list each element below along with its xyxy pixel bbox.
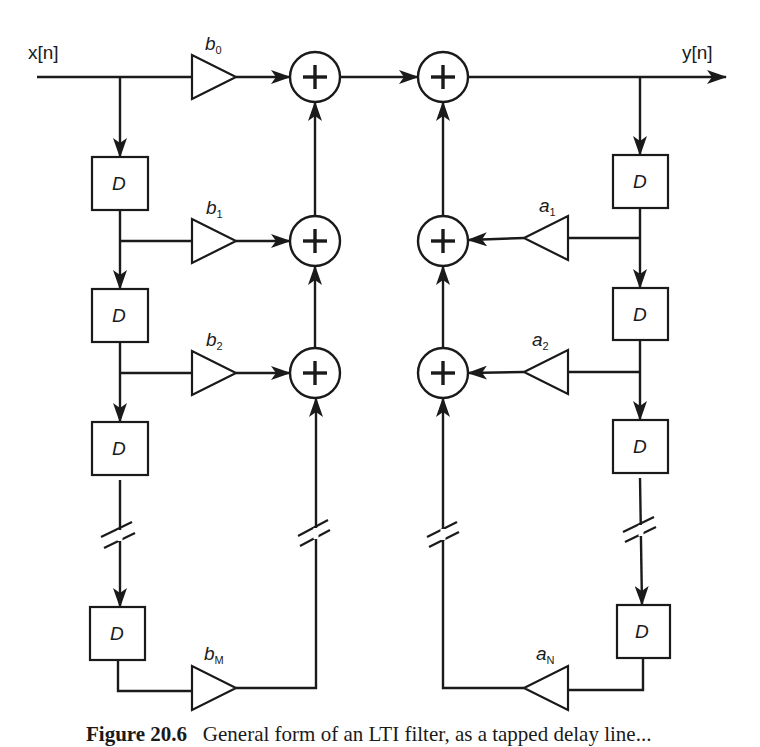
delay-right-3: D — [613, 420, 668, 473]
break-icon — [101, 522, 135, 548]
svg-text:D: D — [112, 438, 126, 459]
delay-left-1: D — [92, 157, 148, 210]
svg-text:D: D — [112, 173, 126, 194]
amplifier-b0: b0 — [192, 33, 236, 99]
amplifier-b2: b2 — [192, 329, 236, 395]
arrow-a1-to-adder — [468, 238, 524, 240]
adder-right-1 — [418, 216, 468, 266]
svg-text:b1: b1 — [206, 197, 223, 220]
delay-right-n: D — [617, 605, 670, 658]
amplifier-aN: aN — [524, 643, 568, 710]
break-icon — [298, 520, 330, 546]
svg-text:bM: bM — [204, 643, 224, 666]
amplifier-a1: a1 — [524, 195, 568, 260]
svg-text:D: D — [112, 305, 126, 326]
svg-text:D: D — [633, 436, 647, 457]
output-label: y[n] — [682, 42, 713, 63]
svg-text:b0: b0 — [205, 33, 222, 56]
amplifier-a2: a2 — [524, 329, 568, 394]
delay-right-1: D — [613, 155, 668, 208]
svg-text:D: D — [633, 171, 647, 192]
delay-left-m: D — [90, 607, 145, 660]
figure-caption: Figure 20.6 General form of an LTI filte… — [86, 722, 651, 747]
tap-wire-aN — [568, 658, 643, 690]
adder-left-2 — [290, 348, 340, 398]
tap-wire-bM — [118, 660, 192, 691]
input-label: x[n] — [28, 42, 59, 63]
svg-text:D: D — [633, 304, 647, 325]
adder-left-0 — [290, 52, 340, 102]
svg-text:aN: aN — [536, 643, 555, 666]
delay-right-2: D — [613, 288, 668, 340]
delay-left-2: D — [92, 289, 148, 342]
adder-right-0 — [418, 52, 468, 102]
svg-text:D: D — [110, 623, 124, 644]
svg-text:a1: a1 — [539, 195, 556, 218]
adder-left-1 — [290, 216, 340, 266]
svg-text:b2: b2 — [206, 329, 223, 352]
amplifier-bM: bM — [192, 643, 236, 710]
amplifier-b1: b1 — [192, 197, 236, 263]
caption-label: Figure 20.6 — [86, 722, 187, 746]
arrow-to-delay-right-n — [640, 478, 642, 605]
arrow-a2-to-adder — [468, 372, 524, 373]
caption-text: General form of an LTI filter, as a tapp… — [203, 722, 652, 746]
svg-text:D: D — [635, 621, 649, 642]
adder-right-2 — [418, 348, 468, 398]
svg-text:a2: a2 — [532, 329, 549, 352]
wire-aN-to-adder — [443, 398, 524, 688]
delay-left-3: D — [92, 422, 148, 475]
